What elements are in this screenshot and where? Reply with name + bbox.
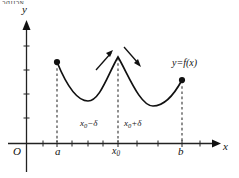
x-axis-label: x [223,141,228,152]
tick-label-x0-sub: 0 [116,150,120,158]
delta-right-tail: +δ [131,118,141,128]
delta-left-label: x0−δ [80,119,98,129]
origin-label: O [13,146,21,157]
tick-label-x0: x0 [112,146,120,158]
increasing-arrow [96,50,113,70]
decreasing-arrow [124,47,141,67]
delta-right-label: x0+δ [124,119,142,129]
tick-label-a: a [55,146,61,157]
y-axis [23,20,31,172]
function-curve [57,57,182,106]
increasing-arrowhead [106,50,113,57]
dashed-guide-lines [57,58,182,142]
endpoint-dot-a [54,59,60,65]
endpoint-dot-b [179,77,185,83]
y-axis-label: y [22,4,27,15]
y-axis-arrowhead [23,20,31,30]
x-axis-arrowhead [212,140,221,148]
function-label: y=f(x) [172,58,197,68]
figure-container: ɔɑɪɪɔɴ [0,0,239,178]
delta-left-tail: −δ [87,118,97,128]
tick-label-b: b [178,146,184,157]
